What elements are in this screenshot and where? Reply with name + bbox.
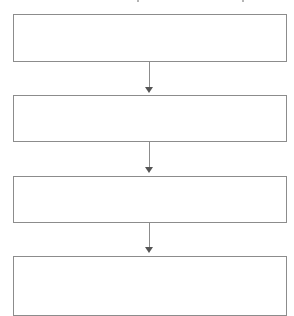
clipped-mark-left xyxy=(137,0,139,2)
flow-step-1 xyxy=(13,14,287,62)
arrowhead-down-icon xyxy=(145,87,153,93)
flow-step-2 xyxy=(13,95,287,142)
connector-3-4 xyxy=(149,223,151,248)
connector-2-3 xyxy=(149,142,151,168)
arrowhead-down-icon xyxy=(145,247,153,253)
flow-step-3 xyxy=(13,176,287,223)
flow-step-4 xyxy=(13,256,287,316)
clipped-mark-right xyxy=(242,0,244,2)
arrowhead-down-icon xyxy=(145,167,153,173)
connector-1-2 xyxy=(149,62,151,88)
